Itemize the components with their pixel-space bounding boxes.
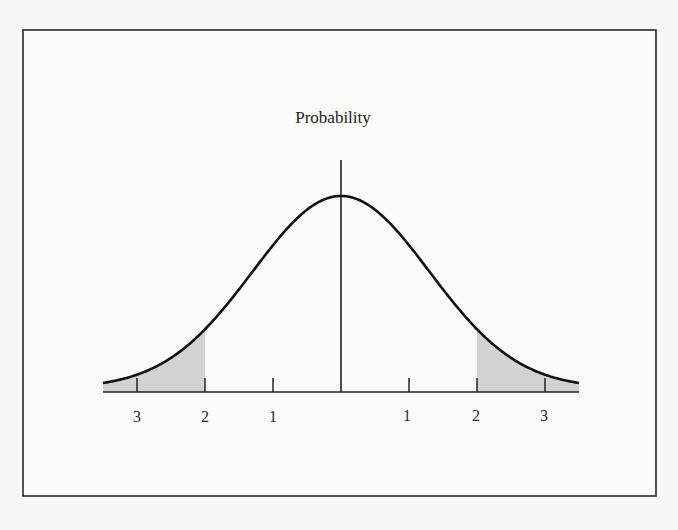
tick-label-neg2: 2 (201, 408, 209, 425)
normal-distribution-figure: 3 2 1 1 2 3 Probability (0, 0, 678, 530)
y-axis-title: Probability (295, 108, 371, 127)
figure-frame (23, 30, 656, 496)
tick-label-pos2: 2 (472, 407, 480, 424)
tick-label-pos3: 3 (540, 407, 548, 424)
tick-label-neg1: 1 (269, 408, 277, 425)
tick-label-pos1: 1 (403, 407, 411, 424)
tick-label-neg3: 3 (133, 408, 141, 425)
